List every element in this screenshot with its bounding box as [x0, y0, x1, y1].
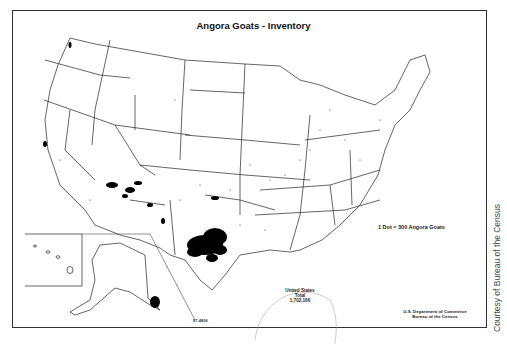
map-code: 87-4806 — [193, 318, 208, 323]
dot-legend: 1 Dot = 300 Angora Goats — [378, 224, 445, 230]
us-dot-density-map — [0, 0, 507, 344]
courtesy-caption: Courtesy of Bureau of the Census — [492, 204, 502, 332]
credit-line2: Bureau of the Census — [400, 314, 470, 319]
census-credit: U.S. Department of Commerce Bureau of th… — [400, 309, 470, 319]
state-outlines — [44, 38, 430, 290]
map-title: Angora Goats - Inventory — [0, 20, 507, 31]
total-value: 1,702,166 — [282, 298, 318, 303]
hawaii-inset-box — [25, 234, 82, 286]
hawaii-island — [34, 245, 37, 247]
us-total-label: United States Total 1,702,166 — [282, 288, 318, 304]
goat-dots — [43, 42, 227, 308]
alaska-outline — [70, 243, 160, 315]
